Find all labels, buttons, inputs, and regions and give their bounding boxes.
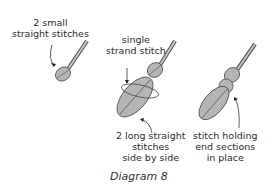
figure-small-stitches: [50, 41, 87, 84]
figure-holding-stitch: [193, 44, 255, 128]
label-single-strand: single strand stitch: [106, 34, 166, 56]
label-long-stitches: 2 long straight stitches side by side: [116, 130, 185, 163]
diagram-caption: Diagram 8: [110, 170, 168, 183]
label-holding-stitch: stitch holding end sections in place: [193, 130, 258, 163]
label-small-stitches: 2 small straight stitches: [12, 17, 89, 39]
